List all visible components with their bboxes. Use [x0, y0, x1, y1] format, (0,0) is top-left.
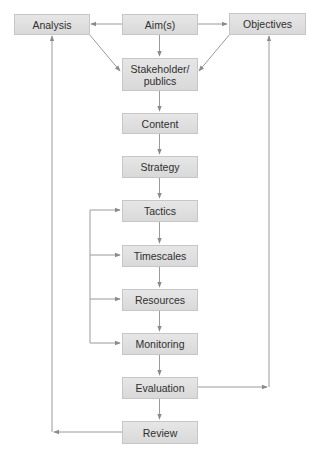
node-label: Evaluation: [135, 382, 184, 394]
node-label-line-2: publics: [144, 75, 177, 87]
node-resources: Resources: [122, 289, 198, 311]
node-tactics: Tactics: [122, 200, 198, 222]
node-strategy: Strategy: [122, 156, 198, 178]
node-objectives: Objectives: [229, 13, 306, 35]
node-label: Timescales: [134, 250, 187, 262]
node-label: Strategy: [140, 161, 179, 173]
node-label: Review: [143, 427, 177, 439]
node-monitoring: Monitoring: [122, 333, 198, 355]
node-label: Resources: [135, 294, 185, 306]
node-label: Objectives: [243, 18, 292, 30]
node-label: Analysis: [32, 19, 71, 31]
node-review: Review: [122, 421, 198, 444]
node-label: Monitoring: [135, 338, 184, 350]
node-label: Tactics: [144, 205, 176, 217]
node-label: Aim(s): [145, 19, 175, 31]
node-stakeholder-publics: Stakeholder/ publics: [122, 58, 198, 91]
node-label: Content: [142, 118, 179, 130]
node-evaluation: Evaluation: [122, 377, 198, 399]
node-aims: Aim(s): [122, 14, 198, 35]
node-content: Content: [122, 113, 198, 134]
node-timescales: Timescales: [122, 245, 198, 267]
node-analysis: Analysis: [14, 14, 90, 35]
node-label-line-1: Stakeholder/: [131, 63, 190, 75]
